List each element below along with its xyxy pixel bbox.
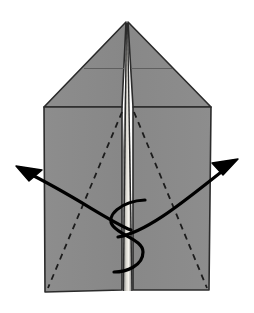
left-paper-panel [44,107,122,292]
origami-diagram-figure [0,0,254,313]
origami-diagram-canvas [0,0,254,313]
